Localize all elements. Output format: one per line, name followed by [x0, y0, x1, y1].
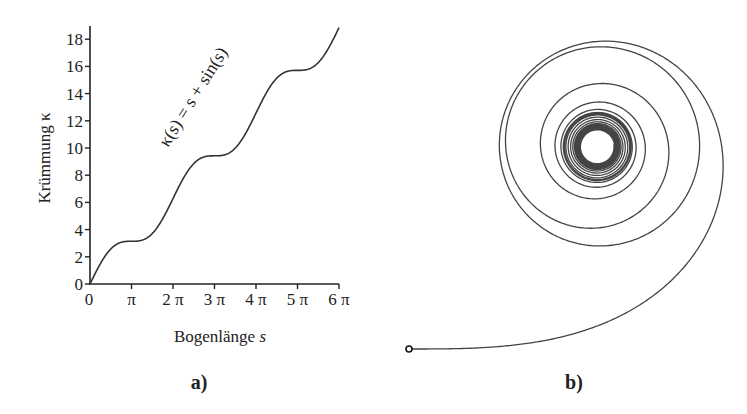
panel-b-label: b) — [565, 371, 583, 394]
y-tick-label: 0 — [75, 275, 84, 294]
panel-a-label: a) — [191, 371, 208, 394]
y-ticks: 024681012141618 — [66, 30, 90, 294]
x-tick-label: 3 π — [204, 290, 226, 309]
x-tick-label: 6 π — [328, 290, 350, 309]
figure: 024681012141618 0π2 π3 π4 π5 π6 π Krümmu… — [0, 0, 747, 414]
spiral-curve — [409, 41, 723, 349]
x-tick-label: 5 π — [287, 290, 309, 309]
y-tick-label: 6 — [75, 193, 84, 212]
y-tick-label: 8 — [75, 166, 84, 185]
y-tick-label: 12 — [66, 112, 83, 131]
y-tick-label: 14 — [66, 85, 84, 104]
y-axis-label: Krümmung κ — [35, 112, 54, 204]
x-tick-label: π — [127, 290, 136, 309]
spiral-plot: b) — [406, 41, 723, 394]
y-tick-label: 16 — [66, 57, 83, 76]
y-tick-label: 4 — [75, 221, 84, 240]
start-point-marker — [406, 346, 412, 352]
y-tick-label: 2 — [75, 248, 84, 267]
curvature-plot: 024681012141618 0π2 π3 π4 π5 π6 π Krümmu… — [35, 26, 350, 394]
x-ticks: 0π2 π3 π4 π5 π6 π — [85, 284, 350, 309]
x-tick-label: 4 π — [245, 290, 267, 309]
x-axis-label: Bogenlänge s — [174, 327, 266, 346]
x-tick-label: 2 π — [162, 290, 184, 309]
y-tick-label: 10 — [66, 139, 83, 158]
y-tick-label: 18 — [66, 30, 83, 49]
curve-annotation: κ(s) = s + sin(s) — [154, 43, 232, 150]
x-tick-label: 0 — [85, 290, 94, 309]
